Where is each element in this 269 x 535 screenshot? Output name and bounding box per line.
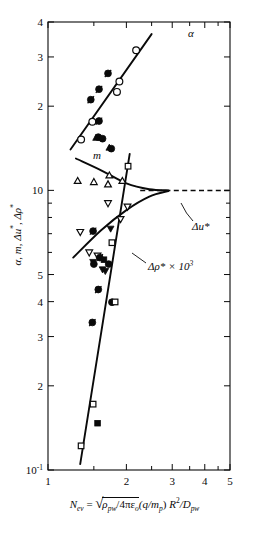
x-tick-label: 1	[45, 475, 51, 487]
data-point	[78, 136, 85, 143]
x-tick-label: 3	[169, 475, 175, 487]
delta-rho-star-symbol: Δρ*	[147, 260, 166, 272]
x-axis-four-pi-eps: /4πε	[116, 498, 135, 510]
x-axis-equals: =	[84, 498, 96, 510]
data-point	[90, 261, 97, 268]
x-axis-r: R	[169, 498, 176, 510]
x-axis-sqrt-contents: ρpw/4πεo	[102, 497, 138, 513]
data-point	[99, 135, 106, 142]
x-axis-sqrt-group: ρpw/4πεo	[95, 497, 138, 513]
data-point	[74, 177, 81, 183]
y-tick-label: 4	[38, 16, 44, 28]
delta-u-star-label: Δu*	[191, 220, 210, 232]
data-point	[116, 78, 123, 85]
y-tick-label: 2	[38, 100, 44, 112]
y-axis-star-2: *	[9, 204, 18, 208]
m-fit-curve	[76, 159, 168, 191]
y-axis-ticks	[48, 22, 230, 470]
x-axis-n: N	[70, 498, 77, 510]
delta-u-leader-line	[181, 203, 193, 221]
alpha-filled-circle	[87, 70, 114, 152]
y-tick-label: 2	[38, 380, 44, 392]
mid-filled-square	[101, 257, 107, 263]
data-point	[109, 240, 115, 246]
data-point	[114, 88, 121, 95]
y-axis-comma-2: ,	[11, 241, 23, 247]
data-point	[105, 181, 112, 187]
data-point	[95, 420, 101, 426]
m-curve-label: m	[93, 149, 101, 161]
data-point	[105, 201, 112, 207]
y-axis-delta-u: Δu	[11, 229, 23, 241]
annotation-m: m	[93, 149, 101, 161]
y-tick-label: 4	[38, 296, 44, 308]
scatter-plot: 43210543210-1 12345 α m Δu* Δρ*× 103	[0, 0, 269, 535]
y-tick-label: 10-1	[26, 463, 43, 476]
annotation-delta-u-star: Δu*	[181, 203, 210, 232]
annotation-alpha: α	[188, 27, 194, 39]
data-point	[90, 179, 97, 185]
data-point	[89, 118, 96, 125]
delta-u-open-triangle-down	[77, 201, 131, 259]
x-axis-title: Nev = ρpw/4πεo(q/mp) R2/Dpw	[0, 496, 269, 513]
exponent-three: 3	[188, 259, 193, 268]
y-tick-label: 5	[38, 269, 44, 281]
y-axis-m: m	[11, 246, 23, 254]
data-point	[119, 177, 126, 183]
x-axis-d-subscript: pw	[191, 504, 200, 513]
x-axis-close-paren: )	[163, 498, 167, 510]
data-point	[133, 47, 140, 54]
data-point	[78, 443, 84, 449]
data-point	[77, 230, 84, 236]
y-tick-label: 3	[38, 331, 44, 343]
figure-container: 43210543210-1 12345 α m Δu* Δρ*× 103 α, …	[0, 0, 269, 535]
x-tick-label: 2	[124, 475, 130, 487]
delta-rho-star-label: Δρ*× 103	[147, 259, 193, 272]
data-point	[107, 226, 114, 232]
plot-frame	[48, 22, 230, 470]
y-axis-comma-3: ,	[11, 220, 23, 226]
y-tick-label: 10	[32, 184, 44, 196]
rho-filled-circle	[89, 286, 115, 326]
y-tick-label: 3	[38, 51, 44, 63]
alpha-curve-label: α	[188, 27, 194, 39]
x-axis-q-over-m: (q/m	[139, 498, 159, 510]
y-axis-alpha: α	[11, 260, 23, 266]
x-tick-label: 4	[202, 475, 208, 487]
x-axis-tick-labels: 12345	[45, 475, 233, 487]
y-axis-delta-rho: Δρ	[11, 208, 23, 220]
y-axis-title: α, m, Δu*, Δρ*	[9, 165, 23, 305]
x-tick-label: 5	[227, 475, 233, 487]
x-axis-n-subscript: ev	[77, 504, 84, 513]
delta-u-star-fit-curve	[73, 191, 168, 258]
data-point	[124, 204, 131, 210]
times-ten-cubed: × 10	[168, 260, 190, 272]
y-axis-tick-labels: 43210543210-1	[26, 16, 44, 476]
y-axis-star-1: *	[9, 225, 18, 229]
x-axis-ticks	[48, 22, 230, 470]
data-point	[86, 250, 93, 256]
data-point	[112, 299, 118, 305]
x-axis-over-d: /D	[180, 498, 191, 510]
data-point	[125, 163, 131, 169]
y-axis-comma-1: ,	[11, 254, 23, 260]
data-point	[90, 401, 96, 407]
data-point	[101, 257, 107, 263]
delta-rho-leader-line	[132, 253, 146, 263]
rho-filled-square	[95, 420, 101, 426]
x-axis-eps-subscript: o	[135, 504, 139, 513]
annotation-delta-rho-star: Δρ*× 103	[132, 253, 193, 272]
